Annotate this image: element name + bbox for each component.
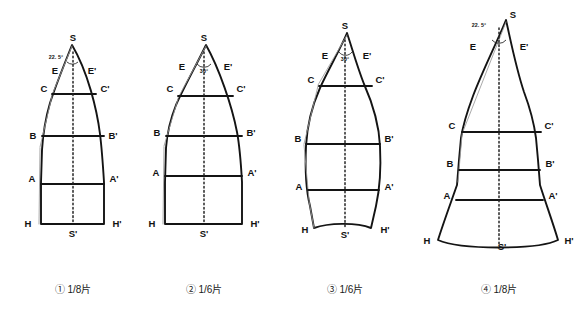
panel-3-label-B: B [295, 133, 302, 144]
panel-3-label-Cprime: C' [375, 74, 384, 85]
panel-1-label-Sprime: S' [69, 228, 78, 239]
diagram-canvas: S 22. 5° E E' C C' B B' A A' H H' S' ① 1… [0, 0, 580, 318]
panel-2-caption: ② 1/6片 [186, 283, 223, 295]
panel-3-label-E: E [322, 50, 328, 61]
panel-3-label-Aprime: A' [384, 181, 393, 192]
panel-4-group: S 22. 5° E E' C C' B B' A A' H H' S' ④ 1… [424, 9, 574, 295]
panel-3-group: S 30° E E' C C' B B' A A' H H' S' ③ 1/6片 [295, 20, 394, 295]
panel-2-label-A: A [153, 167, 160, 178]
panel-1-chord-cb [40, 96, 52, 147]
panel-2-label-E: E [179, 61, 185, 72]
panel-4-label-Bprime: B' [545, 158, 554, 169]
panel-4-label-B: B [447, 158, 454, 169]
panel-2-label-S: S [201, 32, 207, 43]
panel-2-group: S 30° E E' C C' B B' A A' H H' S' ② 1/6片 [149, 32, 260, 295]
panel-4-label-Aprime: A' [548, 190, 557, 201]
panel-2-angle-label: 30° [200, 68, 208, 74]
panel-3-label-Sprime: S' [341, 229, 350, 240]
panel-4-label-C: C [449, 120, 456, 131]
panel-3-label-Eprime: E' [363, 50, 372, 61]
panel-4-label-Cprime: C' [544, 120, 553, 131]
panel-4-label-Hprime: H' [564, 235, 573, 246]
panel-2-label-Bprime: B' [246, 127, 255, 138]
panel-3-angle-label: 30° [341, 56, 349, 62]
panel-2-chord-cb [164, 99, 178, 146]
panel-1-label-C: C [41, 83, 48, 94]
panel-4-outline [438, 20, 558, 248]
panel-3-label-Hprime: H' [380, 224, 389, 235]
panel-4-label-Eprime: E' [520, 41, 529, 52]
panel-1-caption: ① 1/8片 [55, 283, 92, 295]
panel-2-label-Eprime: E' [224, 61, 233, 72]
panel-4-label-S: S [510, 9, 516, 20]
panel-3-label-C: C [308, 74, 315, 85]
panel-1-angle-label: 22. 5° [49, 54, 64, 60]
panel-2-label-B: B [154, 127, 161, 138]
panel-1-label-S: S [70, 32, 76, 43]
panel-2-label-Sprime: S' [200, 228, 209, 239]
panel-3-chord-ah [309, 201, 314, 228]
panel-2-label-C: C [167, 83, 174, 94]
panel-2-label-Aprime: A' [247, 167, 256, 178]
panel-4-angle-label: 22. 5° [472, 22, 487, 28]
panel-3-label-Bprime: B' [384, 133, 393, 144]
panel-4-label-Sprime: S' [498, 241, 507, 252]
panel-1-label-Bprime: B' [108, 130, 117, 141]
panel-1-label-Hprime: H' [112, 218, 121, 229]
panel-1-label-Cprime: C' [100, 83, 109, 94]
panel-1-label-B: B [30, 130, 37, 141]
panel-2-label-Cprime: C' [236, 83, 245, 94]
panel-1-label-A: A [29, 173, 36, 184]
panel-2-label-H: H [149, 218, 156, 229]
panel-3-caption: ③ 1/6片 [327, 283, 364, 295]
panel-3-label-A: A [296, 181, 303, 192]
panel-3-outline [306, 33, 381, 228]
panel-4-label-A: A [444, 190, 451, 201]
panel-1-label-Eprime: E' [88, 65, 97, 76]
panel-1-label-E: E [52, 65, 58, 76]
gore-panel-diagram: S 22. 5° E E' C C' B B' A A' H H' S' ① 1… [0, 0, 580, 318]
panel-3-label-H: H [302, 224, 309, 235]
panel-1-label-H: H [25, 218, 32, 229]
panel-4-label-H: H [424, 235, 431, 246]
panel-3-label-S: S [342, 20, 348, 31]
panel-1-chord-bh [39, 148, 40, 224]
panel-2-chord-bh [163, 147, 164, 224]
panel-4-label-E: E [470, 41, 476, 52]
panel-4-caption: ④ 1/8片 [481, 283, 518, 295]
panel-3-chord-cb [304, 86, 318, 144]
panel-1-group: S 22. 5° E E' C C' B B' A A' H H' S' ① 1… [25, 32, 122, 295]
panel-2-label-Hprime: H' [250, 218, 259, 229]
panel-1-label-Aprime: A' [109, 173, 118, 184]
